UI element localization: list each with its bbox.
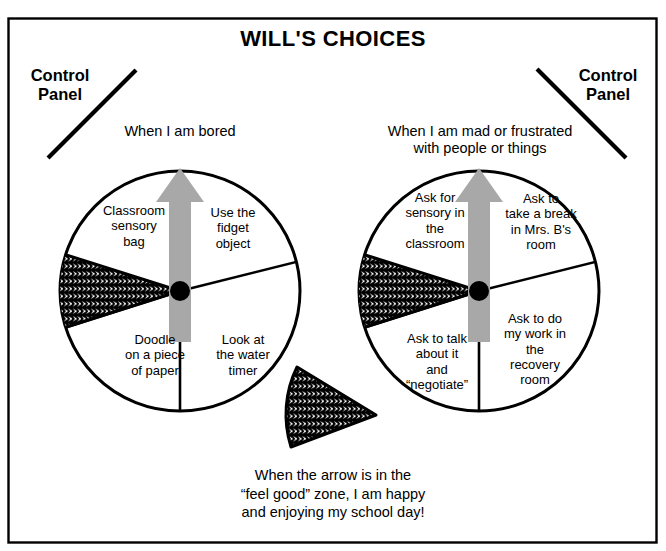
wheel-right-hub <box>469 281 489 301</box>
wheel-left-slice-label-2[interactable]: Use the fidget object <box>190 205 276 251</box>
wheel-right-slice-label-1[interactable]: Ask for sensory in the classroom <box>392 190 478 251</box>
wheel-left-slice-label-4[interactable]: Look at the water timer <box>202 332 284 378</box>
wheel-left-slice-label-1[interactable]: Classroom sensory bag <box>86 203 182 249</box>
wheel-left-slice-label-3[interactable]: Doodle on a piece of paper <box>108 332 202 378</box>
wheel-right-slice-label-2[interactable]: Ask to take a break in Mrs. B's room <box>495 191 587 252</box>
page-title: WILL'S CHOICES <box>0 27 666 52</box>
control-panel-label-right: Control Panel <box>560 66 656 105</box>
wheel-right-slice-label-3[interactable]: Ask to talk about it and “negotiate” <box>392 331 482 392</box>
legend-caption: When the arrow is in the “feel good” zon… <box>173 466 493 522</box>
control-panel-label-left: Control Panel <box>12 66 108 105</box>
poster: WILL'S CHOICES Control Panel Control Pan… <box>0 0 666 551</box>
wheel-right-heading: When I am mad or frustrated with people … <box>370 123 590 158</box>
wheel-left-heading: When I am bored <box>90 123 270 140</box>
wheel-right-slice-label-4[interactable]: Ask to do my work in the recovery room <box>492 311 578 388</box>
wheel-left-hub <box>170 281 190 301</box>
